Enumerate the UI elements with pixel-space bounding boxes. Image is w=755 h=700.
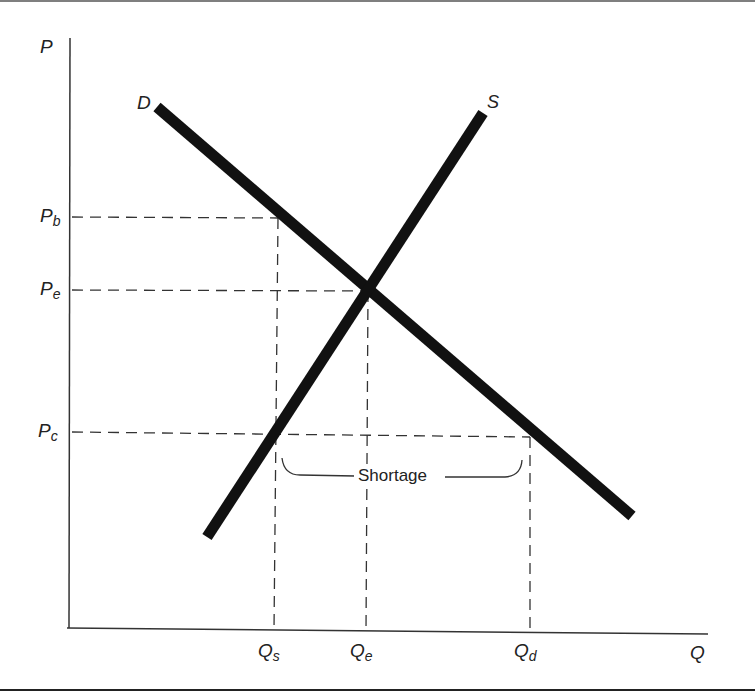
supply-demand-diagram	[0, 0, 755, 700]
quantity-label-qs: Qs	[258, 640, 280, 664]
price-label-pb: Pb	[40, 205, 60, 229]
supply-curve	[207, 113, 483, 537]
y-axis	[69, 38, 70, 628]
demand-label: D	[137, 92, 151, 114]
price-label-pc: Pc	[38, 420, 58, 444]
quantity-label-qd: Qd	[514, 640, 537, 664]
supply-label: S	[487, 92, 499, 113]
shortage-label: Shortage	[354, 466, 431, 486]
price-label-pe: Pe	[40, 278, 60, 302]
x-axis	[67, 628, 708, 634]
y-axis-label: P	[40, 36, 53, 58]
x-axis-label: Q	[690, 642, 705, 664]
demand-curve	[157, 107, 632, 516]
quantity-label-qe: Qe	[350, 640, 373, 664]
guide-lines	[72, 217, 530, 633]
